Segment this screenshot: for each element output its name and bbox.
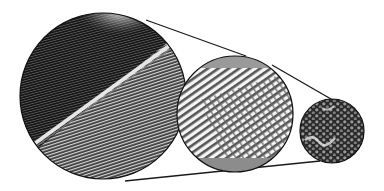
- feather-vane-panel: [15, 5, 195, 188]
- barbules-panel: [175, 54, 295, 174]
- cells-panel: [298, 97, 366, 165]
- feather-magnification-figure: [0, 0, 384, 191]
- figure-canvas: [0, 0, 384, 191]
